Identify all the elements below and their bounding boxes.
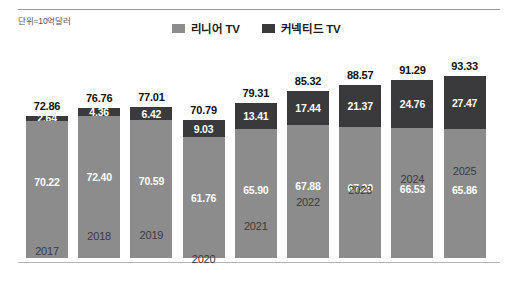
bar-segment-value-connected-tv: 17.44 bbox=[295, 103, 320, 114]
bar-segment-connected-tv: 6.42 bbox=[130, 107, 172, 120]
bar-total-label: 70.79 bbox=[174, 104, 234, 116]
bar-segment-connected-tv: 4.36 bbox=[78, 108, 120, 117]
bar-segment-connected-tv: 13.41 bbox=[235, 103, 277, 129]
bar-segment-linear-tv: 66.53 bbox=[391, 128, 433, 258]
x-tick-label-2024: 2024 bbox=[382, 173, 442, 185]
bar-column-2018: 76.764.3672.402018 bbox=[78, 108, 120, 258]
bar-segment-connected-tv: 21.37 bbox=[339, 85, 381, 127]
bar-segment-value-connected-tv: 6.42 bbox=[142, 109, 162, 120]
bar-column-2020: 70.799.0361.762020 bbox=[183, 120, 225, 258]
x-tick-label-2022: 2022 bbox=[278, 196, 338, 208]
bar-segment-value-linear-tv: 66.53 bbox=[400, 184, 425, 195]
bar-stack: 13.4165.90 bbox=[235, 103, 277, 258]
x-tick-label-2021: 2021 bbox=[226, 220, 286, 232]
bar-stack: 17.4467.88 bbox=[287, 91, 329, 258]
bar-segment-value-linear-tv: 67.88 bbox=[295, 181, 320, 192]
bar-column-2019: 77.016.4270.592019 bbox=[130, 107, 172, 258]
bar-total-label: 88.57 bbox=[330, 69, 390, 81]
bar-total-label: 85.32 bbox=[278, 75, 338, 87]
bar-segment-value-linear-tv: 61.76 bbox=[191, 193, 216, 204]
bar-total-label: 93.33 bbox=[435, 60, 495, 72]
plot-area: 72.862.6470.22201776.764.3672.40201877.0… bbox=[0, 0, 512, 290]
bar-segment-linear-tv: 65.86 bbox=[444, 129, 486, 258]
bar-segment-connected-tv: 9.03 bbox=[183, 120, 225, 138]
bar-segment-value-linear-tv: 70.59 bbox=[139, 176, 164, 187]
bar-segment-linear-tv: 67.88 bbox=[287, 125, 329, 258]
bar-segment-linear-tv: 70.22 bbox=[26, 121, 68, 258]
bar-total-label: 77.01 bbox=[121, 91, 181, 103]
x-tick-label-2019: 2019 bbox=[121, 229, 181, 241]
bar-column-2025: 93.3327.4765.862025 bbox=[444, 76, 486, 258]
bar-segment-linear-tv: 65.90 bbox=[235, 129, 277, 258]
bar-stack: 2.6470.22 bbox=[26, 116, 68, 258]
bar-column-2022: 85.3217.4467.882022 bbox=[287, 91, 329, 258]
bar-segment-value-linear-tv: 65.86 bbox=[452, 185, 477, 196]
bar-total-label: 79.31 bbox=[226, 87, 286, 99]
bar-column-2023: 88.5721.3767.202023 bbox=[339, 85, 381, 258]
bar-total-label: 72.86 bbox=[17, 100, 77, 112]
bar-segment-value-linear-tv: 72.40 bbox=[87, 172, 112, 183]
bar-stack: 9.0361.76 bbox=[183, 120, 225, 258]
bar-segment-value-linear-tv: 70.22 bbox=[34, 177, 59, 188]
bar-segment-connected-tv: 24.76 bbox=[391, 80, 433, 128]
bar-total-label: 91.29 bbox=[382, 64, 442, 76]
bar-segment-value-linear-tv: 65.90 bbox=[243, 185, 268, 196]
stacked-bar-chart: 단위=10억달러 리니어 TV 커넥티드 TV 72.862.6470.2220… bbox=[0, 0, 512, 290]
bar-total-label: 76.76 bbox=[69, 92, 129, 104]
bar-segment-value-connected-tv: 27.47 bbox=[452, 98, 477, 109]
bar-stack: 24.7666.53 bbox=[391, 80, 433, 258]
bar-segment-connected-tv: 17.44 bbox=[287, 91, 329, 125]
x-tick-label-2020: 2020 bbox=[174, 253, 234, 265]
bar-segment-linear-tv: 61.76 bbox=[183, 137, 225, 258]
x-tick-label-2017: 2017 bbox=[17, 245, 77, 257]
bar-column-2017: 72.862.6470.222017 bbox=[26, 116, 68, 258]
x-tick-label-2018: 2018 bbox=[69, 230, 129, 242]
bar-segment-value-connected-tv: 24.76 bbox=[400, 99, 425, 110]
bar-segment-value-connected-tv: 13.41 bbox=[243, 111, 268, 122]
x-tick-label-2025: 2025 bbox=[435, 165, 495, 177]
bar-stack: 21.3767.20 bbox=[339, 85, 381, 258]
x-axis-line bbox=[18, 262, 500, 263]
x-tick-label-2023: 2023 bbox=[330, 184, 390, 196]
bar-column-2024: 91.2924.7666.532024 bbox=[391, 80, 433, 258]
bar-segment-value-connected-tv: 9.03 bbox=[194, 124, 214, 135]
bar-segment-connected-tv: 27.47 bbox=[444, 76, 486, 130]
bar-segment-value-connected-tv: 21.37 bbox=[348, 101, 373, 112]
bar-column-2021: 79.3113.4165.902021 bbox=[235, 103, 277, 258]
